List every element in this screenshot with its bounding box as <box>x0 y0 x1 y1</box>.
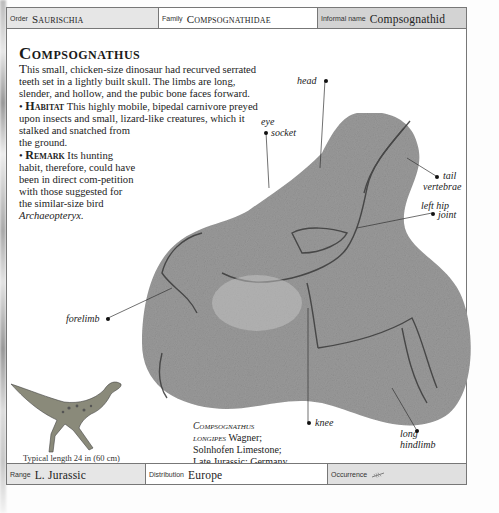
intro-text: his small, chicken-size dinosaur had rec… <box>19 64 256 99</box>
intro-paragraph: This small, chicken-size dinosaur had re… <box>19 63 269 100</box>
hip-marker-dot <box>431 212 435 216</box>
range-value: L. Jurassic <box>35 469 86 481</box>
family-label: Family <box>162 15 183 22</box>
typical-length: Typical length 24 in (60 cm) <box>23 453 120 463</box>
range-cell: Range L. Jurassic <box>7 464 146 484</box>
habitat-paragraph-cont: stalked and snatched from the ground. <box>19 125 137 149</box>
occurrence-cell: Occurrence <box>328 464 466 484</box>
fossil-slab-image <box>142 113 482 433</box>
family-cell: Family Compsognathidae <box>159 8 318 28</box>
specimen-caption: Compsognathus longipes Wagner; Solnhofen… <box>193 420 289 468</box>
label-eye: eye <box>261 116 274 127</box>
range-label: Range <box>10 471 31 478</box>
tail-marker-dot <box>435 175 439 179</box>
knee-marker-dot <box>307 421 311 425</box>
classification-header: Order Saurischia Family Compsognathidae … <box>7 8 466 29</box>
forelimb-marker-dot <box>106 317 110 321</box>
family-value: Compsognathidae <box>187 13 271 25</box>
remark-keyword: Remark <box>25 148 64 162</box>
label-forelimb: forelimb <box>66 313 100 324</box>
distribution-value: Europe <box>188 469 222 481</box>
archaeopteryx-name: Archaeopteryx. <box>19 210 84 221</box>
label-head: head <box>297 75 316 86</box>
drop-letter: T <box>19 61 27 76</box>
reference-page: Order Saurischia Family Compsognathidae … <box>6 7 467 485</box>
order-cell: Order Saurischia <box>7 8 159 28</box>
distribution-label: Distribution <box>149 471 184 478</box>
distribution-footer: Range L. Jurassic Distribution Europe Oc… <box>7 463 466 484</box>
fern-frond-icon <box>371 472 385 478</box>
distribution-cell: Distribution Europe <box>146 464 328 484</box>
entry-title: Compsognathus <box>19 44 140 64</box>
order-value: Saurischia <box>32 13 84 25</box>
order-label: Order <box>10 15 28 22</box>
genus-name: Compsognathus <box>193 421 254 431</box>
formation: Solnhofen Limestone; <box>193 444 289 456</box>
label-joint: joint <box>438 209 456 220</box>
label-knee: knee <box>315 417 333 428</box>
label-tail: tail <box>443 170 456 181</box>
author-name: Wagner; <box>226 432 262 443</box>
remark-paragraph: • Remark Its hunting habit, therefore, c… <box>19 149 137 222</box>
label-vertebrae: vertebrae <box>423 181 461 192</box>
occurrence-label: Occurrence <box>331 471 367 478</box>
head-marker-dot <box>324 79 328 83</box>
hindlimb-marker-dot <box>415 429 419 433</box>
informal-name-cell: Informal name Compsognathid <box>318 8 466 28</box>
dinosaur-reconstruction-image <box>9 376 127 456</box>
label-hindlimb: hindlimb <box>400 439 436 450</box>
label-socket: socket <box>271 127 296 138</box>
informal-name-label: Informal name <box>321 15 366 22</box>
informal-name-value: Compsognathid <box>370 13 445 25</box>
habitat-keyword: Habitat <box>25 99 64 113</box>
species-name: longipes <box>193 433 226 443</box>
eye-socket-marker-dot <box>264 131 268 135</box>
